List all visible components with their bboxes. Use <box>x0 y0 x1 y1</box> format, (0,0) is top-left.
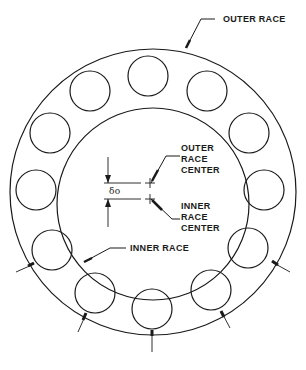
label-line: OUTER <box>181 143 220 154</box>
ball <box>187 71 227 111</box>
ball <box>228 228 268 268</box>
ball <box>128 56 168 96</box>
ball <box>191 270 231 310</box>
label-line: RACE <box>181 212 220 223</box>
delta-o-symbol: δo <box>109 186 120 197</box>
outer-race-label: OUTER RACE <box>223 14 286 25</box>
bearing-diagram <box>0 0 306 370</box>
inner-race <box>57 108 249 300</box>
ball <box>132 289 172 329</box>
inner-race-center-label: INNER RACE CENTER <box>181 201 220 234</box>
inner-race-label: INNER RACE <box>130 243 189 254</box>
outer-race <box>10 49 296 335</box>
label-line: CENTER <box>181 223 220 234</box>
ball <box>75 273 115 313</box>
ball <box>70 71 110 111</box>
label-line: RACE <box>181 154 220 165</box>
ball <box>244 170 284 210</box>
label-line: INNER <box>181 201 220 212</box>
ball <box>229 113 269 153</box>
ball <box>30 113 70 153</box>
load-arrows <box>16 262 290 352</box>
label-line: CENTER <box>181 165 220 176</box>
outer-race-center-label: OUTER RACE CENTER <box>181 143 220 176</box>
ball <box>16 170 56 210</box>
ball <box>32 230 72 270</box>
